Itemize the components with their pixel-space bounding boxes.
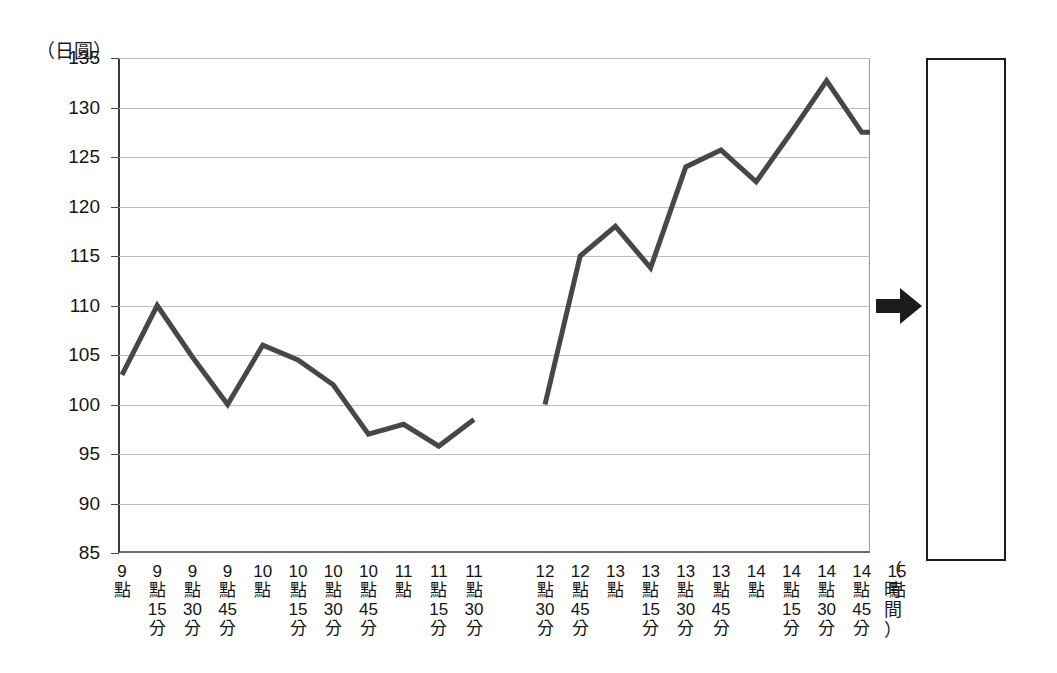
x-unit-char-0: （ xyxy=(880,560,906,580)
x-tick-label-5-line-1: 點 xyxy=(283,581,313,600)
x-unit-char-2: 間 xyxy=(880,600,906,620)
y-tick-mark-90 xyxy=(111,504,119,505)
chart-figure: （日圓） 859095100105110115120125130135 9點9點… xyxy=(0,0,1057,673)
x-tick-label-20: 14點45分 xyxy=(847,562,877,638)
x-tick-label-12-line-2: 45 xyxy=(565,600,595,619)
y-tick-label-130: 130 xyxy=(56,98,100,117)
x-tick-label-6-line-3: 分 xyxy=(318,619,348,638)
x-tick-label-10-line-0: 11 xyxy=(459,562,489,581)
x-tick-label-19: 14點30分 xyxy=(812,562,842,638)
x-unit-char-3: ） xyxy=(880,620,906,640)
x-tick-label-4: 10點 xyxy=(248,562,278,638)
x-tick-label-6-line-1: 點 xyxy=(318,581,348,600)
x-tick-label-16-line-1: 點 xyxy=(706,581,736,600)
x-tick-label-18-line-1: 點 xyxy=(776,581,806,600)
x-tick-label-1-line-2: 15 xyxy=(142,600,172,619)
x-tick-label-12: 12點45分 xyxy=(565,562,595,638)
y-tick-label-125: 125 xyxy=(56,147,100,166)
x-tick-label-7-line-1: 點 xyxy=(353,581,383,600)
x-tick-label-8-line-2 xyxy=(389,600,419,619)
x-tick-label-13-line-1: 點 xyxy=(600,581,630,600)
x-tick-label-4-line-0: 10 xyxy=(248,562,278,581)
x-tick-label-16-line-0: 13 xyxy=(706,562,736,581)
gridline-95 xyxy=(118,454,870,455)
gridline-120 xyxy=(118,207,870,208)
x-tick-label-7: 10點45分 xyxy=(353,562,383,638)
x-tick-label-17-line-3 xyxy=(741,619,771,638)
x-axis-unit-label: （ 時 間 ） xyxy=(880,560,906,640)
gridline-110 xyxy=(118,306,870,307)
x-tick-label-14-line-1: 點 xyxy=(636,581,666,600)
x-tick-label-8-line-0: 11 xyxy=(389,562,419,581)
x-tick-label-4-line-3 xyxy=(248,619,278,638)
x-tick-label-15-line-0: 13 xyxy=(671,562,701,581)
x-tick-label-8: 11點 xyxy=(389,562,419,638)
x-tick-label-6-line-2: 30 xyxy=(318,600,348,619)
x-tick-label-19-line-2: 30 xyxy=(812,600,842,619)
x-tick-label-20-line-2: 45 xyxy=(847,600,877,619)
x-tick-label-11-line-3: 分 xyxy=(530,619,560,638)
y-tick-label-100: 100 xyxy=(56,395,100,414)
x-tick-label-18-line-0: 14 xyxy=(776,562,806,581)
x-tick-label-13-line-2 xyxy=(600,600,630,619)
x-tick-label-2-line-3: 分 xyxy=(177,619,207,638)
x-tick-label-3-line-0: 9 xyxy=(213,562,243,581)
x-tick-label-9-line-1: 點 xyxy=(424,581,454,600)
x-tick-label-5-line-3: 分 xyxy=(283,619,313,638)
x-tick-label-12-line-1: 點 xyxy=(565,581,595,600)
y-tick-mark-130 xyxy=(111,108,119,109)
x-tick-label-18: 14點15分 xyxy=(776,562,806,638)
x-tick-label-15: 13點30分 xyxy=(671,562,701,638)
x-tick-label-12-line-0: 12 xyxy=(565,562,595,581)
x-tick-label-15-line-3: 分 xyxy=(671,619,701,638)
x-tick-label-2-line-1: 點 xyxy=(177,581,207,600)
x-tick-label-14-line-0: 13 xyxy=(636,562,666,581)
empty-answer-box[interactable] xyxy=(926,58,1006,561)
y-tick-label-105: 105 xyxy=(56,345,100,364)
y-tick-label-135: 135 xyxy=(56,48,100,67)
x-tick-label-15-line-2: 30 xyxy=(671,600,701,619)
x-tick-label-18-line-3: 分 xyxy=(776,619,806,638)
x-tick-label-0-line-2 xyxy=(107,600,137,619)
x-tick-label-1: 9點15分 xyxy=(142,562,172,638)
x-tick-label-7-line-3: 分 xyxy=(353,619,383,638)
y-tick-label-95: 95 xyxy=(56,444,100,463)
x-tick-label-3-line-1: 點 xyxy=(213,581,243,600)
x-tick-label-20-line-0: 14 xyxy=(847,562,877,581)
y-tick-mark-110 xyxy=(111,306,119,307)
y-tick-mark-135 xyxy=(111,58,119,59)
x-tick-label-3: 9點45分 xyxy=(213,562,243,638)
y-tick-label-90: 90 xyxy=(56,494,100,513)
y-tick-mark-125 xyxy=(111,157,119,158)
x-tick-label-20-line-1: 點 xyxy=(847,581,877,600)
x-tick-label-19-line-3: 分 xyxy=(812,619,842,638)
x-unit-char-1: 時 xyxy=(880,580,906,600)
x-tick-label-16: 13點45分 xyxy=(706,562,736,638)
x-tick-label-2-line-0: 9 xyxy=(177,562,207,581)
x-tick-label-20-line-3: 分 xyxy=(847,619,877,638)
x-tick-label-13-line-0: 13 xyxy=(600,562,630,581)
x-tick-label-17-line-0: 14 xyxy=(741,562,771,581)
x-tick-label-0-line-0: 9 xyxy=(107,562,137,581)
x-tick-label-17-line-1: 點 xyxy=(741,581,771,600)
y-tick-mark-100 xyxy=(111,405,119,406)
x-tick-label-14: 13點15分 xyxy=(636,562,666,638)
x-tick-label-0-line-1: 點 xyxy=(107,581,137,600)
x-tick-label-5-line-2: 15 xyxy=(283,600,313,619)
x-tick-label-4-line-2 xyxy=(248,600,278,619)
x-tick-label-14-line-2: 15 xyxy=(636,600,666,619)
gridline-130 xyxy=(118,108,870,109)
x-tick-label-16-line-3: 分 xyxy=(706,619,736,638)
x-tick-label-9: 11點15分 xyxy=(424,562,454,638)
y-tick-label-115: 115 xyxy=(56,246,100,265)
x-tick-label-10: 11點30分 xyxy=(459,562,489,638)
x-tick-label-10-line-3: 分 xyxy=(459,619,489,638)
y-tick-mark-120 xyxy=(111,207,119,208)
x-tick-label-5: 10點15分 xyxy=(283,562,313,638)
gridline-135 xyxy=(118,58,870,59)
x-tick-label-1-line-0: 9 xyxy=(142,562,172,581)
x-tick-label-7-line-0: 10 xyxy=(353,562,383,581)
x-tick-label-19-line-1: 點 xyxy=(812,581,842,600)
x-tick-label-2: 9點30分 xyxy=(177,562,207,638)
x-tick-label-7-line-2: 45 xyxy=(353,600,383,619)
